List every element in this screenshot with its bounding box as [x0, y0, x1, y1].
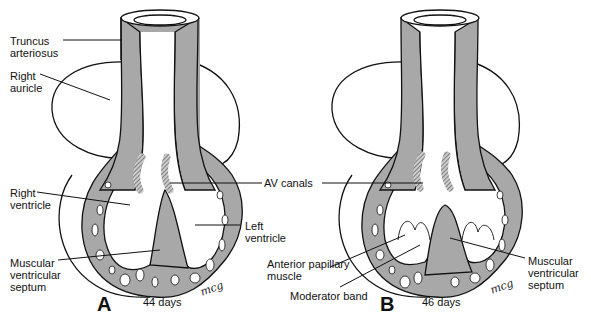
panel-letter-b: B [380, 293, 394, 316]
label-anterior-papillary-muscle: Anterior papillary muscle [267, 258, 350, 282]
label-muscular-ventricular-septum-a: Muscular ventricular septum [10, 257, 61, 293]
panel-age-a: 44 days [143, 296, 182, 308]
label-av-canals: AV canals [264, 177, 313, 189]
panel-letter-a: A [97, 293, 111, 316]
label-right-auricle: Right auricle [10, 70, 42, 94]
label-truncus-arteriosus: Truncus arteriosus [10, 35, 58, 59]
label-right-ventricle: Right ventricle [10, 187, 51, 211]
label-muscular-ventricular-septum-b: Muscular ventricular septum [528, 255, 579, 291]
label-moderator-band: Moderator band [290, 290, 368, 302]
panel-a-heart [37, 10, 262, 297]
panel-age-b: 46 days [422, 296, 461, 308]
label-left-ventricle: Left ventricle [245, 220, 286, 244]
